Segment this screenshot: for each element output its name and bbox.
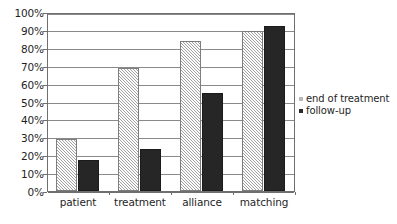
plot-area — [47, 13, 295, 192]
bar-alliance-end-of-treatment — [180, 41, 201, 191]
chart-legend: end of treatmentfollow-up — [299, 93, 397, 117]
legend-swatch-icon — [299, 109, 303, 113]
y-axis-tick-label: 100% — [0, 8, 44, 19]
y-axis-tick-label: 20% — [0, 151, 44, 162]
bar-treatment-end-of-treatment — [118, 68, 139, 191]
bar-matching-end-of-treatment — [242, 31, 263, 191]
y-axis-tick-label: 30% — [0, 133, 44, 144]
bar-matching-follow-up — [264, 26, 285, 191]
legend-item-end-of-treatment: end of treatment — [299, 93, 397, 104]
y-axis-tick-label: 70% — [0, 62, 44, 73]
y-axis-tick-mark — [43, 192, 47, 193]
y-axis-tick-label: 60% — [0, 80, 44, 91]
x-axis-tick-label-treatment: treatment — [109, 196, 171, 208]
x-axis-tick-label-alliance: alliance — [171, 196, 233, 208]
gridline-100% — [48, 14, 294, 15]
bar-chart: 0%10%20%30%40%50%60%70%80%90%100% patien… — [0, 0, 397, 224]
y-axis-tick-label: 10% — [0, 169, 44, 180]
bar-alliance-follow-up — [202, 93, 223, 191]
bar-patient-follow-up — [78, 160, 99, 191]
y-axis-tick-label: 40% — [0, 115, 44, 126]
legend-label: follow-up — [306, 105, 351, 116]
x-axis-tick-mark — [233, 192, 234, 195]
y-axis-tick-label: 0% — [0, 187, 44, 198]
y-axis-tick-label: 90% — [0, 26, 44, 37]
legend-swatch-icon — [299, 97, 303, 101]
y-axis-tick-label: 50% — [0, 98, 44, 109]
bar-patient-end-of-treatment — [56, 139, 77, 191]
x-axis-tick-label-matching: matching — [233, 196, 295, 208]
legend-item-follow-up: follow-up — [299, 105, 397, 116]
legend-label: end of treatment — [306, 93, 389, 104]
x-axis-tick-mark — [295, 192, 296, 195]
x-axis-tick-label-patient: patient — [47, 196, 109, 208]
y-axis-tick-label: 80% — [0, 44, 44, 55]
x-axis-tick-mark — [109, 192, 110, 195]
bar-treatment-follow-up — [140, 149, 161, 191]
x-axis-tick-mark — [171, 192, 172, 195]
